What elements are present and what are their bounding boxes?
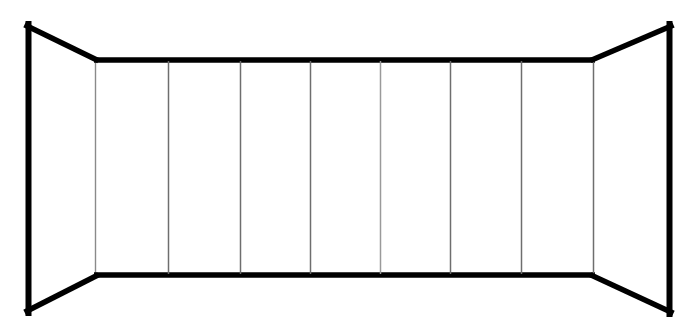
figure-canvas bbox=[0, 0, 699, 333]
perspective-enclosure-drawing bbox=[0, 0, 699, 333]
